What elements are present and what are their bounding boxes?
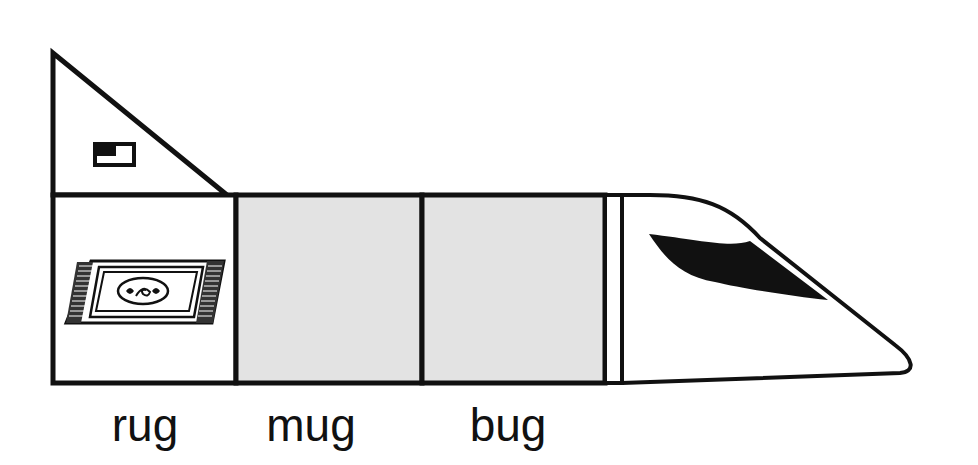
rug-picture-icon xyxy=(66,261,224,323)
train-car-mug xyxy=(236,195,422,383)
train-coupler xyxy=(605,195,622,383)
train-car-rug xyxy=(53,195,236,383)
train-tail xyxy=(53,53,227,195)
word-label-bug: bug xyxy=(428,402,588,448)
train-car-bug xyxy=(422,195,605,383)
word-label-rug: rug xyxy=(65,402,225,448)
word-train-diagram: rug mug bug xyxy=(0,0,978,465)
word-label-mug: mug xyxy=(231,402,391,448)
small-flag-icon xyxy=(95,144,134,165)
train-engine xyxy=(622,195,911,383)
